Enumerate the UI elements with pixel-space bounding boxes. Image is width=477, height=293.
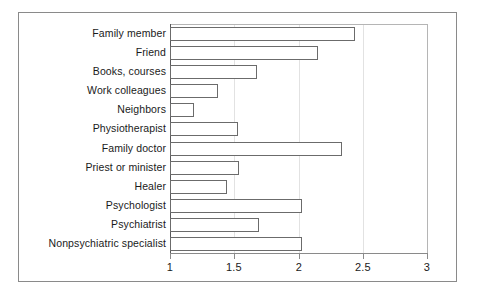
bar [170, 103, 194, 117]
bar [170, 237, 302, 251]
figure-canvas: Family memberFriendBooks, coursesWork co… [0, 0, 477, 293]
bar [170, 142, 342, 156]
chart-row: Physiotherapist [0, 119, 477, 138]
category-label: Healer [134, 177, 166, 196]
x-tick-label-1: 1 [150, 261, 190, 273]
chart-row: Nonpsychiatric specialist [0, 234, 477, 253]
chart-row: Family member [0, 24, 477, 43]
category-label: Neighbors [117, 100, 166, 119]
x-tick-3 [427, 254, 428, 259]
bar [170, 65, 257, 79]
x-tick-label-1.5: 1.5 [214, 261, 254, 273]
category-label: Nonpsychiatric specialist [49, 234, 166, 253]
bar [170, 84, 218, 98]
category-label: Psychologist [106, 196, 166, 215]
chart-row: Neighbors [0, 100, 477, 119]
x-tick-2 [299, 254, 300, 259]
x-tick-label-2: 2 [279, 261, 319, 273]
bar [170, 27, 355, 41]
bar [170, 218, 259, 232]
x-tick-1.5 [234, 254, 235, 259]
category-label: Priest or minister [85, 158, 166, 177]
bar [170, 180, 227, 194]
x-tick-label-3: 3 [407, 261, 447, 273]
category-label: Physiotherapist [93, 119, 166, 138]
chart-row: Healer [0, 177, 477, 196]
chart-row: Family doctor [0, 139, 477, 158]
category-label: Books, courses [93, 62, 166, 81]
category-label: Family doctor [102, 139, 166, 158]
chart-row: Psychologist [0, 196, 477, 215]
category-label: Psychiatrist [111, 215, 166, 234]
category-label: Work colleagues [87, 81, 166, 100]
category-label: Family member [92, 24, 166, 43]
category-label: Friend [136, 43, 166, 62]
chart-row: Priest or minister [0, 158, 477, 177]
chart-row: Books, courses [0, 62, 477, 81]
chart-row: Psychiatrist [0, 215, 477, 234]
chart-row: Work colleagues [0, 81, 477, 100]
chart-row: Friend [0, 43, 477, 62]
bar [170, 122, 238, 136]
bar [170, 161, 239, 175]
x-tick-1 [170, 254, 171, 259]
x-tick-2.5 [363, 254, 364, 259]
bar [170, 46, 318, 60]
bar [170, 199, 302, 213]
x-tick-label-2.5: 2.5 [343, 261, 383, 273]
